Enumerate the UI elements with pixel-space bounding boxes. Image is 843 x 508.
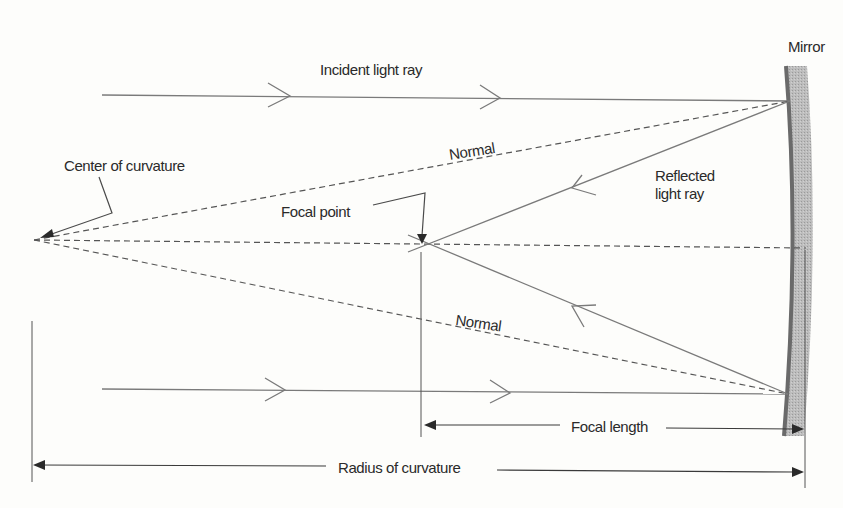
lower-normal bbox=[34, 240, 788, 394]
focal-point-pointer bbox=[373, 193, 427, 244]
mirror-label: Mirror bbox=[788, 38, 825, 55]
arrow-right-icon bbox=[268, 83, 290, 107]
center-of-curvature-label: Center of curvature bbox=[64, 157, 185, 174]
arrow-left-icon bbox=[572, 175, 596, 195]
mirror bbox=[784, 66, 813, 436]
arrow-right-icon bbox=[480, 85, 500, 109]
lower-normal-label: Normal bbox=[455, 311, 503, 334]
incident-ray-label: Incident light ray bbox=[320, 61, 423, 78]
upper-normal-label: Normal bbox=[448, 139, 496, 163]
arrow-left-icon bbox=[424, 420, 436, 430]
reflected-ray-label-line1: Reflected bbox=[655, 167, 715, 184]
arrow-right-icon bbox=[792, 467, 804, 477]
concave-mirror-diagram: Mirror Incident light ray Normal Reflect… bbox=[0, 0, 843, 508]
arrow-left-icon bbox=[33, 460, 45, 470]
focal-point-label: Focal point bbox=[281, 203, 351, 220]
arrow-right-icon bbox=[265, 378, 285, 401]
focal-length-label: Focal length bbox=[571, 418, 648, 435]
upper-reflected-ray bbox=[408, 101, 790, 252]
center-of-curvature-pointer bbox=[40, 177, 112, 238]
upper-incident-ray bbox=[102, 83, 790, 109]
lower-incident-ray bbox=[102, 378, 788, 403]
radius-of-curvature-label: Radius of curvature bbox=[338, 459, 461, 476]
reflected-ray-label-line2: light ray bbox=[655, 185, 705, 202]
